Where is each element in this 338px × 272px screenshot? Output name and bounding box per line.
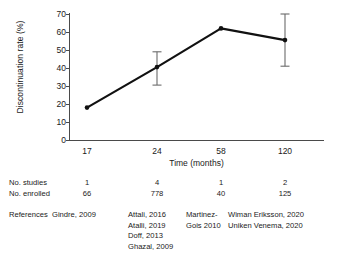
data-point-marker <box>85 105 90 110</box>
data-series-discontinuation-rate <box>0 0 338 172</box>
table-row-label: No. enrolled <box>9 189 50 198</box>
references-cell: Martinez-Gois 2010 <box>186 210 221 231</box>
figure-container: Discontinuation rate (%) 010203040506070… <box>0 0 338 272</box>
table-row-label: No. studies <box>9 178 47 187</box>
table-cell: 125 <box>279 189 292 198</box>
reference-entry: Uniken Venema, 2020 <box>228 221 304 232</box>
reference-entry: Gois 2010 <box>186 221 221 232</box>
reference-entry: Martinez- <box>186 210 221 221</box>
table-cell: 66 <box>83 189 91 198</box>
series-line <box>87 28 285 107</box>
data-point-marker <box>283 38 288 43</box>
references-row-label: References <box>9 210 48 219</box>
data-point-marker <box>155 65 160 70</box>
reference-entry: Ghazal, 2009 <box>128 242 173 253</box>
table-cell: 1 <box>219 178 223 187</box>
table-row: No. studies1412 <box>0 178 338 189</box>
references-cell: Gindre, 2009 <box>52 210 96 221</box>
table-cell: 40 <box>217 189 225 198</box>
reference-entry: Attali, 2016 <box>128 210 173 221</box>
data-point-marker <box>219 26 224 31</box>
references-cell: Wiman Eriksson, 2020Uniken Venema, 2020 <box>228 210 304 231</box>
table-cell: 1 <box>85 178 89 187</box>
reference-entry: Gindre, 2009 <box>52 210 96 221</box>
references-cell: Attali, 2016Atalli, 2019Doff, 2013Ghazal… <box>128 210 173 252</box>
reference-entry: Wiman Eriksson, 2020 <box>228 210 304 221</box>
reference-entry: Doff, 2013 <box>128 231 173 242</box>
summary-table: No. studies1412No. enrolled6677840125 Re… <box>0 178 338 272</box>
reference-entry: Atalli, 2019 <box>128 221 173 232</box>
table-cell: 4 <box>155 178 159 187</box>
references-row: ReferencesGindre, 2009Attali, 2016Atalli… <box>0 210 338 260</box>
table-row: No. enrolled6677840125 <box>0 189 338 200</box>
table-cell: 2 <box>283 178 287 187</box>
chart-plot-area: Discontinuation rate (%) 010203040506070… <box>0 0 338 172</box>
table-cell: 778 <box>151 189 164 198</box>
